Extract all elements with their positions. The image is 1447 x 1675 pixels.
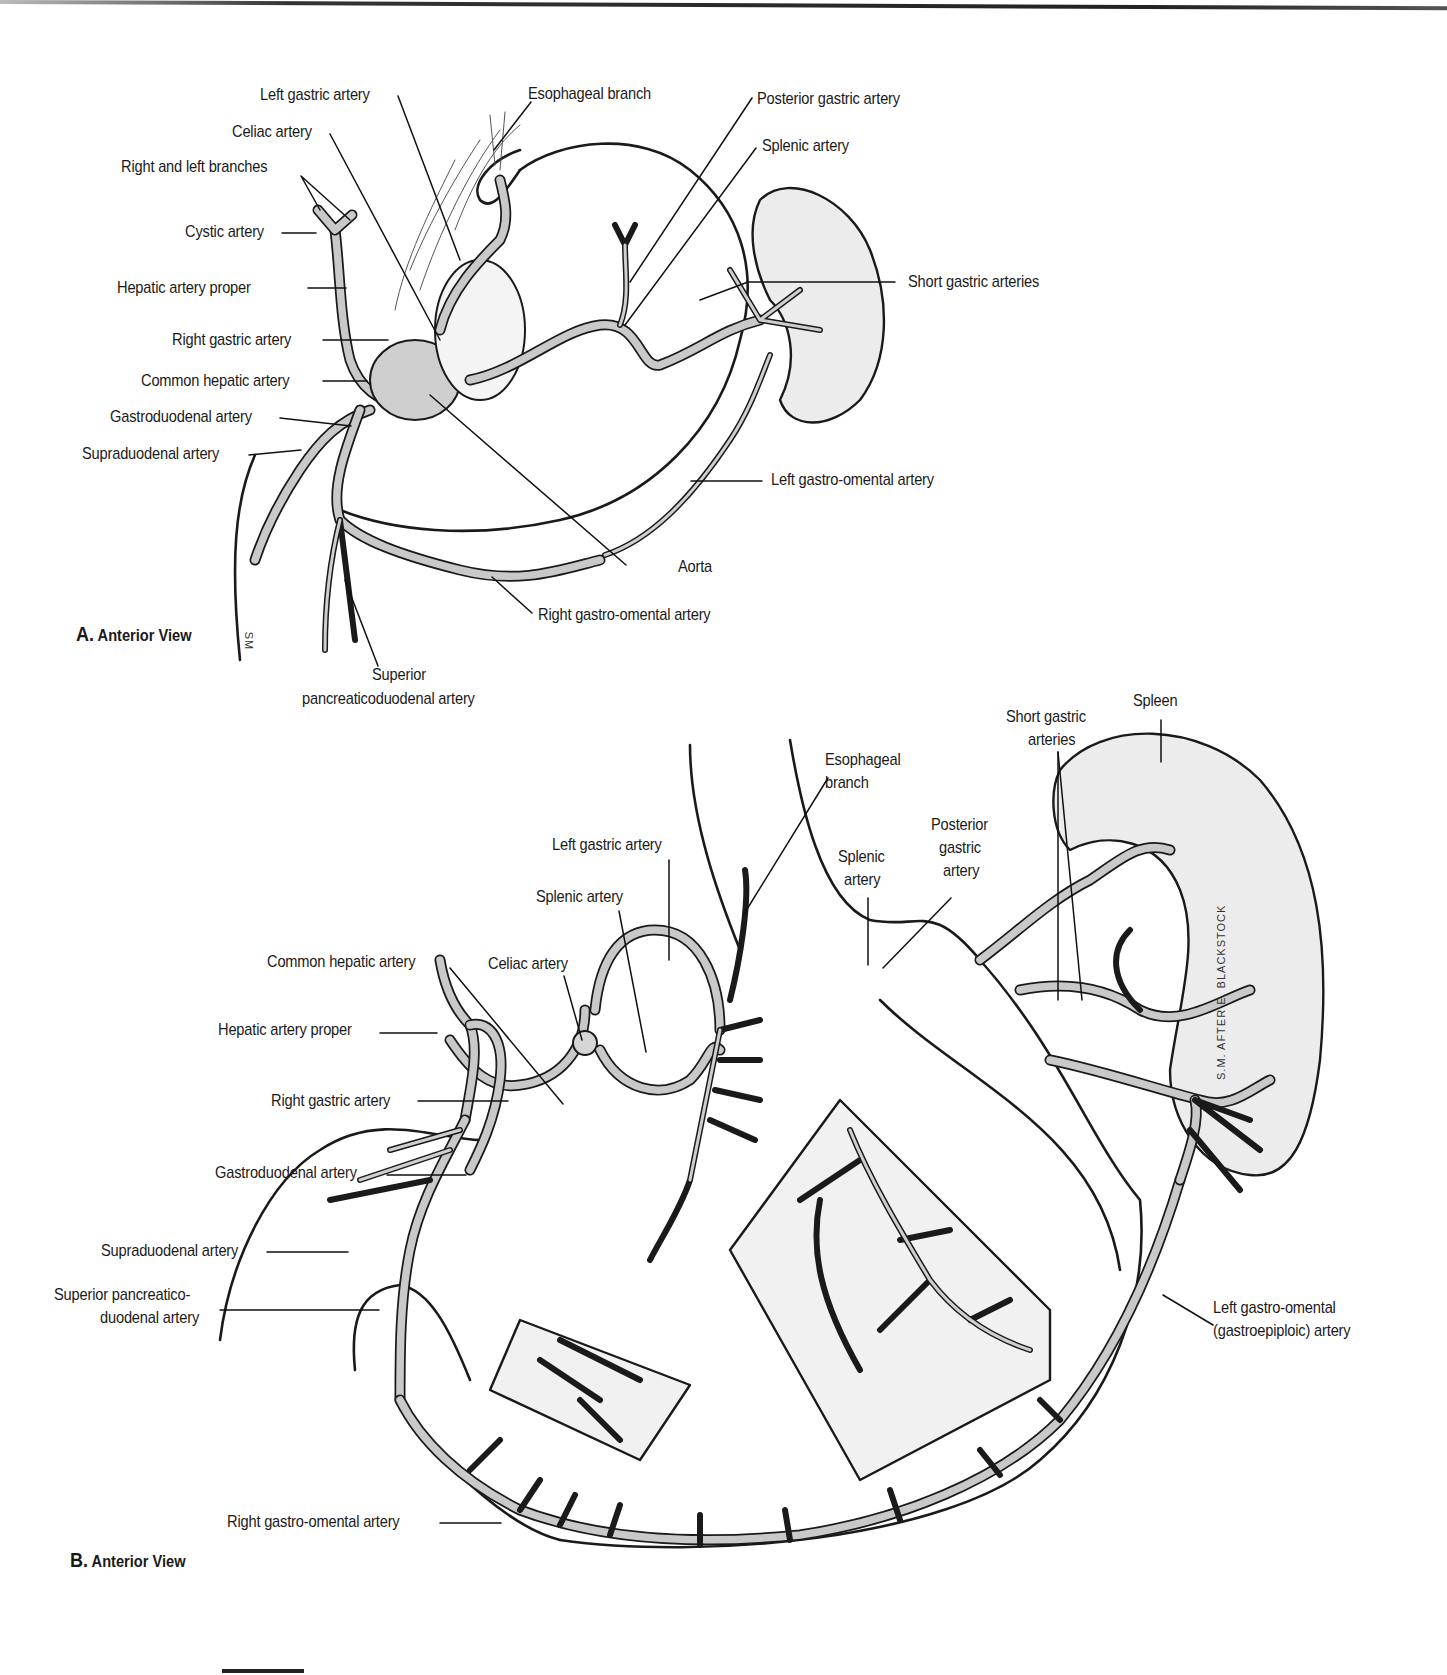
panel-a-view-label: Anterior View	[98, 626, 192, 645]
panel-a-artwork	[235, 112, 884, 660]
label-splenic-artery-a: Splenic artery	[762, 135, 849, 157]
label-right-gastric-artery-b: Right gastric artery	[271, 1090, 390, 1112]
panel-b-title: B. Anterior View	[70, 1548, 186, 1572]
label-esophageal-b-line2: branch	[825, 772, 869, 794]
label-splenic-artery-b: Splenic artery	[536, 886, 623, 908]
label-posterior-gastric-b-line2: gastric	[939, 837, 981, 859]
leader-lines	[220, 96, 1213, 1523]
label-superior-a: Superior	[372, 664, 426, 686]
label-spleen-b: Spleen	[1133, 690, 1177, 712]
label-hepatic-artery-proper-a: Hepatic artery proper	[117, 277, 251, 299]
label-splenic-b-line2: artery	[844, 869, 880, 891]
label-cystic-artery-a: Cystic artery	[185, 221, 264, 243]
bottom-rule	[222, 1669, 304, 1673]
spleen-a	[753, 188, 884, 422]
label-left-gastro-omental-b-line2: (gastroepiploic) artery	[1213, 1320, 1350, 1342]
spleen-b	[1053, 734, 1323, 1176]
label-short-gastric-b-line1: Short gastric	[1006, 706, 1086, 728]
label-short-gastric-b-line2: arteries	[1028, 729, 1075, 751]
label-common-hepatic-artery-a: Common hepatic artery	[141, 370, 289, 392]
label-left-gastric-artery-a: Left gastric artery	[260, 84, 370, 106]
label-aorta-a: Aorta	[678, 556, 712, 578]
panel-a-letter: A.	[76, 622, 94, 645]
label-short-gastric-arteries-a: Short gastric arteries	[908, 271, 1039, 293]
label-celiac-artery-b: Celiac artery	[488, 953, 568, 975]
panel-a-signature: SM	[243, 632, 255, 651]
panel-a-title: A. Anterior View	[76, 622, 192, 646]
label-splenic-b-line1: Splenic	[838, 846, 885, 868]
label-right-gastro-omental-artery-b: Right gastro-omental artery	[227, 1511, 399, 1533]
label-gastroduodenal-artery-a: Gastroduodenal artery	[110, 406, 252, 428]
label-celiac-artery-a: Celiac artery	[232, 121, 312, 143]
mucosa-window-large	[730, 1100, 1050, 1480]
label-left-gastro-omental-b-line1: Left gastro-omental	[1213, 1297, 1336, 1319]
label-left-gastric-artery-b: Left gastric artery	[552, 834, 662, 856]
panel-b-view-label: Anterior View	[92, 1552, 186, 1571]
label-esophageal-branch-a: Esophageal branch	[528, 83, 651, 105]
label-esophageal-b-line1: Esophageal	[825, 749, 901, 771]
label-posterior-gastric-artery-a: Posterior gastric artery	[757, 88, 900, 110]
label-supraduodenal-artery-a: Supraduodenal artery	[82, 443, 219, 465]
label-pancreaticoduodenal-artery-a: pancreaticoduodenal artery	[302, 688, 475, 710]
label-posterior-gastric-b-line1: Posterior	[931, 814, 988, 836]
label-right-gastric-artery-a: Right gastric artery	[172, 329, 291, 351]
label-supraduodenal-artery-b: Supraduodenal artery	[101, 1240, 238, 1262]
panel-b-signature: S.M. AFTER E. BLACKSTOCK	[1215, 905, 1227, 1080]
label-common-hepatic-artery-b: Common hepatic artery	[267, 951, 415, 973]
label-gastroduodenal-artery-b: Gastroduodenal artery	[215, 1162, 357, 1184]
label-sup-pancreaticoduodenal-b-line1: Superior pancreatico-	[54, 1284, 190, 1306]
label-left-gastro-omental-artery-a: Left gastro-omental artery	[771, 469, 934, 491]
label-hepatic-artery-proper-b: Hepatic artery proper	[218, 1019, 352, 1041]
label-right-gastro-omental-artery-a: Right gastro-omental artery	[538, 604, 710, 626]
label-posterior-gastric-b-line3: artery	[943, 860, 979, 882]
panel-b-artwork	[220, 734, 1323, 1548]
label-sup-pancreaticoduodenal-b-line2: duodenal artery	[100, 1307, 199, 1329]
arterial-supply-illustration: .ol { fill:none; stroke:#1a1a1a; stroke-…	[0, 0, 1447, 1675]
label-right-left-branches-a: Right and left branches	[121, 156, 267, 178]
panel-b-letter: B.	[70, 1548, 88, 1571]
